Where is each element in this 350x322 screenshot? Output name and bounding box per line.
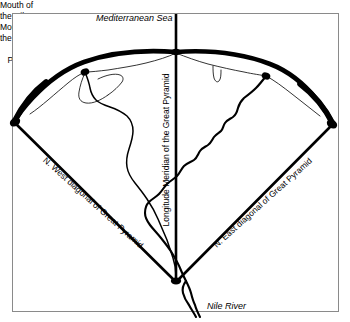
- label-mediterranean-sea: Mediterranean Sea: [96, 13, 173, 24]
- label-nile-river: Nile River: [207, 301, 246, 312]
- figure-container: Mediterranean Sea Mouth of the Nile Mout…: [0, 0, 350, 322]
- delta-arc: [14, 51, 333, 124]
- label-longitude-meridian: Longitude Meridian of the Great Pyramid: [161, 73, 172, 226]
